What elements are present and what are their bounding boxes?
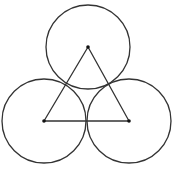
- center-point-left: [42, 119, 46, 123]
- center-point-right: [127, 119, 131, 123]
- center-point-top: [86, 45, 90, 49]
- tangent-circles-diagram: [0, 0, 174, 182]
- center-triangle: [44, 47, 129, 121]
